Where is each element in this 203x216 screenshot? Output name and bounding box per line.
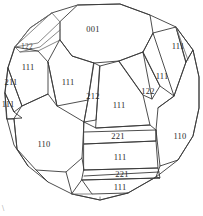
scan-corner-mark: \ — [2, 204, 7, 212]
crystal-habit-figure: 001 122 111 211 111 111 212 111 122 111 … — [0, 0, 203, 216]
crystal-polyhedron-drawing — [0, 0, 203, 216]
